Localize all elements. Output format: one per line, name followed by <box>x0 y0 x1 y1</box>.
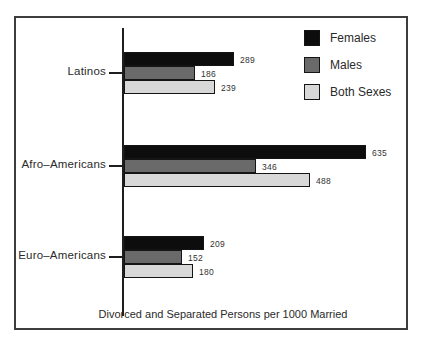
legend-item-both-sexes: Both Sexes <box>304 84 414 100</box>
value-label-males-afro-americans: 346 <box>262 162 277 172</box>
bar-females-euro-americans <box>124 236 204 250</box>
value-label-both-sexes-latinos: 239 <box>221 83 236 93</box>
value-label-females-latinos: 289 <box>240 55 255 65</box>
legend: FemalesMalesBoth Sexes <box>304 30 414 111</box>
value-label-both-sexes-euro-americans: 180 <box>199 267 214 277</box>
value-label-males-euro-americans: 152 <box>188 253 203 263</box>
value-label-both-sexes-afro-americans: 488 <box>316 176 331 186</box>
bar-males-euro-americans <box>124 250 182 264</box>
chart-figure: Latinos289186239Afro–Americans635346488E… <box>0 0 422 343</box>
legend-swatch-both-sexes <box>304 84 320 100</box>
legend-item-males: Males <box>304 57 414 73</box>
bar-females-afro-americans <box>124 145 366 159</box>
axis-tick-afro-americans <box>109 165 122 167</box>
legend-label-females: Females <box>330 31 376 45</box>
bar-females-latinos <box>124 52 234 66</box>
legend-swatch-males <box>304 57 320 73</box>
bar-males-afro-americans <box>124 159 256 173</box>
bar-both-sexes-latinos <box>124 80 215 94</box>
bar-both-sexes-euro-americans <box>124 264 193 278</box>
axis-tick-euro-americans <box>109 256 122 258</box>
bar-both-sexes-afro-americans <box>124 173 310 187</box>
category-label-afro-americans: Afro–Americans <box>14 158 106 170</box>
category-label-euro-americans: Euro–Americans <box>14 249 106 261</box>
axis-tick-latinos <box>109 72 122 74</box>
legend-item-females: Females <box>304 30 414 46</box>
bar-males-latinos <box>124 66 195 80</box>
chart-title: Divorced and Separated Persons per 1000 … <box>14 308 406 320</box>
legend-swatch-females <box>304 30 320 46</box>
value-label-males-latinos: 186 <box>201 69 216 79</box>
category-label-latinos: Latinos <box>14 65 106 77</box>
legend-label-males: Males <box>330 58 362 72</box>
value-label-females-euro-americans: 209 <box>210 239 225 249</box>
value-label-females-afro-americans: 635 <box>372 148 387 158</box>
legend-label-both-sexes: Both Sexes <box>330 85 391 99</box>
